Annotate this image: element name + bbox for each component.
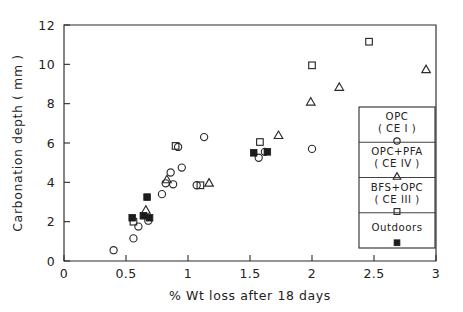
x-tick-label: 0 bbox=[60, 266, 68, 281]
y-tick-label: 8 bbox=[47, 96, 55, 111]
x-tick-label: 1.5 bbox=[239, 266, 260, 281]
legend-label: Outdoors bbox=[372, 222, 423, 233]
scatter-plot-svg: 024681012 00.511.522.53 % Wt loss after … bbox=[0, 0, 463, 312]
y-tick-label: 2 bbox=[47, 214, 55, 229]
x-tick-label: 2 bbox=[308, 266, 316, 281]
y-tick-label: 0 bbox=[47, 254, 55, 269]
x-axis-title: % Wt loss after 18 days bbox=[169, 288, 331, 303]
x-tick-label: 2.5 bbox=[363, 266, 384, 281]
data-point bbox=[140, 212, 147, 219]
x-axis-tick-labels: 00.511.522.53 bbox=[60, 266, 440, 281]
y-tick-label: 6 bbox=[47, 136, 55, 151]
legend-marker bbox=[394, 240, 400, 246]
data-point bbox=[144, 194, 151, 201]
data-point bbox=[129, 214, 136, 221]
chart-figure: 024681012 00.511.522.53 % Wt loss after … bbox=[0, 0, 463, 312]
data-point bbox=[146, 214, 153, 221]
legend-label: OPC+PFA bbox=[371, 146, 422, 157]
x-tick-label: 3 bbox=[432, 266, 440, 281]
legend-sublabel: ( CE I ) bbox=[378, 123, 416, 134]
x-tick-label: 0.5 bbox=[115, 266, 136, 281]
legend-label: OPC bbox=[386, 111, 409, 122]
y-tick-label: 10 bbox=[38, 57, 55, 72]
legend-sublabel: ( CE IV ) bbox=[374, 158, 420, 169]
data-point bbox=[250, 150, 257, 157]
x-tick-label: 1 bbox=[184, 266, 192, 281]
y-axis-title: Carbonation depth ( mm ) bbox=[10, 54, 25, 231]
y-tick-label: 4 bbox=[47, 175, 55, 190]
legend-sublabel: ( CE III ) bbox=[374, 194, 419, 205]
y-tick-label: 12 bbox=[38, 18, 55, 33]
data-point bbox=[264, 149, 271, 156]
legend-label: BFS+OPC bbox=[371, 182, 423, 193]
